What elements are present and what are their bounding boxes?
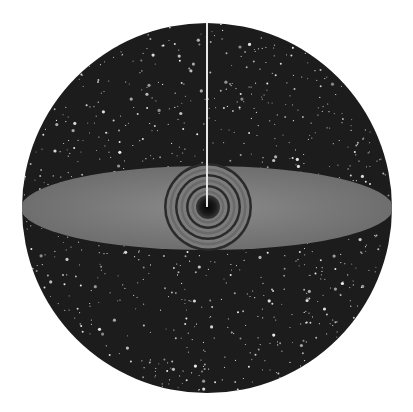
cosmic-sphere-image <box>0 0 413 412</box>
